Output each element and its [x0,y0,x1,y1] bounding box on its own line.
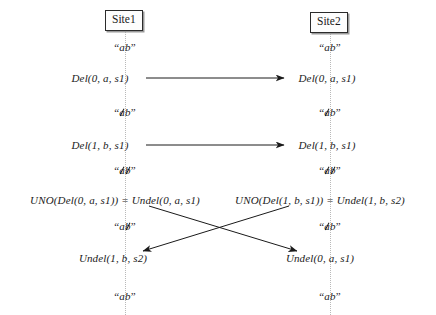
document-state: “ab” [114,290,136,302]
operation-label: Del(1, b, s1) [72,139,129,151]
arrows-layer [0,0,436,315]
quote-close: ” [336,164,341,176]
operation-label: Del(0, a, s1) [299,72,356,84]
document-state: “ab” [114,164,136,176]
document-state: “ab” [319,164,341,176]
char: b [125,290,131,302]
quote-close: ” [336,41,341,53]
char: b [125,41,131,53]
char: b [330,290,336,302]
operation-label: Undel(1, b, s2) [79,252,147,264]
document-state: “ab” [114,106,136,118]
operation-label: Del(0, a, s1) [72,72,129,84]
quote-close: ” [336,290,341,302]
document-state: “ab” [319,220,341,232]
operation-label: Undel(0, a, s1) [286,252,354,264]
operation-label: UNO(Del(0, a, s1)) = Undel(0, a, s1) [30,194,200,206]
char: b [125,106,131,118]
deleted-char: b [125,220,131,232]
document-state: “ab” [319,41,341,53]
quote-close: ” [131,106,136,118]
document-state: “ab” [319,106,341,118]
quote-close: ” [131,290,136,302]
char: b [330,106,336,118]
document-state: “ab” [114,41,136,53]
quote-close: ” [336,220,341,232]
document-state: “ab” [319,290,341,302]
deleted-char: b [125,164,131,176]
quote-close: ” [131,41,136,53]
operation-label: UNO(Del(1, b, s1)) = Undel(1, b, s2) [235,194,405,206]
char: b [330,41,336,53]
quote-close: ” [131,220,136,232]
quote-close: ” [131,164,136,176]
quote-close: ” [336,106,341,118]
message-arrow [143,206,289,251]
operation-label: Del(1, b, s1) [299,139,356,151]
char: b [330,220,336,232]
sequence-diagram: Site1 Site2 “ab”“ab”“ab”“ab”“ab”Del(0, a… [0,0,436,315]
message-arrow [149,206,297,251]
document-state: “ab” [114,220,136,232]
deleted-char: b [330,164,336,176]
